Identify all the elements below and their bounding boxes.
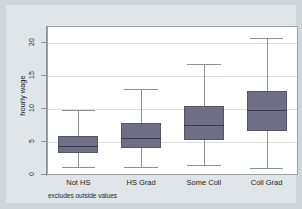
whisker-cap-lower [124, 167, 158, 168]
whisker-cap-upper [124, 89, 158, 90]
y-axis-tick [41, 108, 46, 109]
y-axis-tick-label: 15 [28, 68, 36, 82]
screenshot-root: hourly wage 05101520 Not HSHS GradSome C… [0, 0, 302, 209]
y-axis-tick [41, 42, 46, 43]
gridline [48, 43, 297, 44]
y-axis-tick-label: 20 [28, 35, 36, 49]
median-line [184, 125, 224, 126]
whisker-cap-upper [62, 110, 96, 111]
box [247, 91, 287, 131]
y-axis-line [46, 26, 47, 176]
box [121, 123, 161, 148]
y-axis-tick-label: 10 [28, 101, 36, 115]
whisker-cap-upper [187, 64, 221, 65]
y-axis-tick [41, 75, 46, 76]
whisker-cap-lower [62, 167, 96, 168]
box [184, 106, 224, 139]
whisker-cap-upper [250, 38, 284, 39]
y-axis-tick-label: 0 [28, 167, 36, 181]
median-line [247, 110, 287, 111]
box [58, 136, 98, 153]
gridline [48, 76, 297, 77]
median-line [121, 138, 161, 139]
whisker-cap-lower [250, 168, 284, 169]
figure-note: excludes outside values [48, 192, 117, 199]
median-line [58, 146, 98, 147]
y-axis-tick [41, 141, 46, 142]
x-axis-label-coll-grad: Coll Grad [227, 178, 302, 187]
y-axis-tick [41, 174, 46, 175]
whisker-cap-lower [187, 165, 221, 166]
y-axis-tick-label: 5 [28, 134, 36, 148]
figure-card: hourly wage 05101520 Not HSHS GradSome C… [6, 5, 296, 203]
y-axis-title: hourly wage [18, 66, 27, 126]
